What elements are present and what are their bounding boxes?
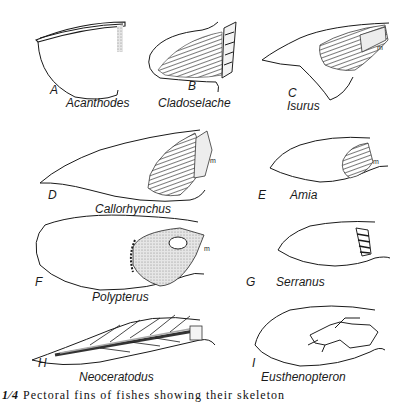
panel-letter-c: C bbox=[288, 86, 297, 100]
panel-letter-e: E bbox=[258, 188, 266, 202]
fin-eusthenopteron bbox=[255, 306, 385, 366]
marker-m-callorhynchus: m bbox=[210, 157, 216, 164]
species-cladoselache: Cladoselache bbox=[158, 96, 231, 110]
panel-letter-g: G bbox=[246, 275, 255, 289]
species-isurus: Isurus bbox=[287, 99, 320, 113]
fin-callorhynchus bbox=[40, 130, 212, 201]
caption-number: 1⁄4 bbox=[2, 388, 19, 402]
figure-caption: 1⁄4 Pectoral fins of fishes showing thei… bbox=[2, 388, 285, 403]
marker-m-amia: m bbox=[373, 158, 379, 165]
marker-m-isurus: m bbox=[377, 44, 383, 51]
fin-neoceratodus bbox=[32, 315, 215, 365]
species-callorhynchus: Callorhynchus bbox=[95, 202, 171, 216]
caption-text: Pectoral fins of fishes showing their sk… bbox=[23, 388, 285, 402]
species-neoceratodus: Neoceratodus bbox=[79, 370, 154, 384]
panel-letter-h: H bbox=[38, 356, 47, 370]
species-amia: Amia bbox=[290, 188, 317, 202]
species-serranus: Serranus bbox=[276, 275, 325, 289]
fin-isurus bbox=[262, 23, 389, 100]
panel-letter-a: A bbox=[50, 83, 58, 97]
fin-serranus bbox=[278, 222, 390, 267]
panel-letter-i: I bbox=[252, 356, 255, 370]
marker-m-polypterus: m bbox=[204, 245, 210, 252]
panel-letter-f: F bbox=[35, 275, 42, 289]
fin-amia bbox=[270, 137, 388, 182]
species-eusthenopteron: Eusthenopteron bbox=[261, 370, 346, 384]
species-polypterus: Polypterus bbox=[92, 290, 149, 304]
panel-letter-d: D bbox=[48, 188, 57, 202]
fin-polypterus bbox=[36, 215, 204, 290]
panel-letter-b: B bbox=[188, 79, 196, 93]
species-acanthodes: Acanthodes bbox=[66, 96, 129, 110]
